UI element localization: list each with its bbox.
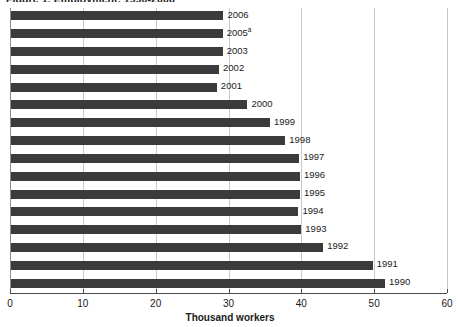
bar-label-2006: 2006 [227, 9, 248, 20]
bar-2003 [10, 47, 223, 56]
bar-series: 20062005a2003200220012000199919981997199… [10, 8, 447, 293]
bar-row: 2002 [10, 65, 447, 74]
bar-1995 [10, 190, 300, 199]
bar-label-1996: 1996 [304, 169, 325, 180]
bar-label-1999: 1999 [274, 116, 295, 127]
x-tick-50 [374, 289, 375, 293]
bar-1992 [10, 243, 323, 252]
bar-1997 [10, 154, 299, 163]
bar-row: 2000 [10, 100, 447, 109]
bar-chart: Figure 1. Employment, 1990-2006 20062005… [0, 0, 460, 327]
bar-row: 1993 [10, 225, 447, 234]
bar-1998 [10, 136, 285, 145]
bar-1999 [10, 118, 270, 127]
bar-2000 [10, 100, 247, 109]
bar-label-1992: 1992 [327, 240, 348, 251]
bar-label-1991: 1991 [377, 258, 398, 269]
bar-label-1994: 1994 [302, 205, 323, 216]
x-tick-20 [156, 289, 157, 293]
bar-label-2005: 2005a [227, 27, 252, 38]
bar-label-1998: 1998 [289, 134, 310, 145]
x-tick-30 [229, 289, 230, 293]
x-tick-label-20: 20 [150, 298, 161, 309]
y-axis-line [10, 8, 11, 294]
footnote-marker: a [248, 26, 252, 33]
bar-label-1993: 1993 [305, 223, 326, 234]
bar-label-2003: 2003 [227, 45, 248, 56]
bar-row: 1990 [10, 279, 447, 288]
bar-row: 2006 [10, 11, 447, 20]
bar-row: 2001 [10, 83, 447, 92]
plot-area: 20062005a2003200220012000199919981997199… [10, 8, 447, 293]
bar-1990 [10, 279, 385, 288]
bar-2005 [10, 29, 223, 38]
bar-label-1995: 1995 [304, 187, 325, 198]
bar-row: 1997 [10, 154, 447, 163]
x-tick-label-0: 0 [7, 298, 13, 309]
bar-2001 [10, 83, 217, 92]
bar-2006 [10, 11, 223, 20]
bar-row: 1991 [10, 261, 447, 270]
bar-label-1990: 1990 [389, 276, 410, 287]
bar-row: 1994 [10, 207, 447, 216]
bar-2002 [10, 65, 219, 74]
x-tick-10 [83, 289, 84, 293]
bar-row: 1998 [10, 136, 447, 145]
x-tick-label-10: 10 [77, 298, 88, 309]
bar-row: 2005a [10, 29, 447, 38]
x-tick-label-40: 40 [296, 298, 307, 309]
bar-label-2000: 2000 [251, 98, 272, 109]
x-tick-label-50: 50 [369, 298, 380, 309]
bar-row: 1992 [10, 243, 447, 252]
x-axis-line [10, 293, 447, 294]
bar-row: 1999 [10, 118, 447, 127]
bar-label-2002: 2002 [223, 62, 244, 73]
x-tick-60 [447, 289, 448, 293]
x-axis-tick-labels: 0102030405060 [10, 298, 447, 312]
bar-1993 [10, 225, 301, 234]
x-tick-0 [10, 289, 11, 293]
bar-1996 [10, 172, 300, 181]
gridline-60 [447, 8, 448, 293]
x-tick-label-60: 60 [441, 298, 452, 309]
x-axis-title: Thousand workers [0, 312, 460, 323]
bar-row: 1995 [10, 190, 447, 199]
bar-row: 1996 [10, 172, 447, 181]
bar-1994 [10, 207, 298, 216]
bar-1991 [10, 261, 373, 270]
bar-label-2001: 2001 [221, 80, 242, 91]
bar-row: 2003 [10, 47, 447, 56]
bar-label-1997: 1997 [303, 151, 324, 162]
x-tick-40 [301, 289, 302, 293]
x-tick-label-30: 30 [223, 298, 234, 309]
chart-title: Figure 1. Employment, 1990-2006 [6, 0, 175, 2]
